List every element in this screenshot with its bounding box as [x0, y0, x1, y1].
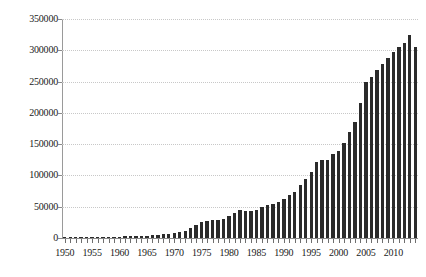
bar: [315, 162, 318, 238]
bar: [85, 237, 88, 238]
bar: [211, 220, 214, 238]
x-axis-tick: [81, 239, 82, 243]
x-axis-tick: [415, 239, 416, 243]
bar: [397, 47, 400, 238]
x-axis-tick: [251, 239, 252, 243]
x-axis-tick: [202, 239, 203, 243]
bar: [260, 207, 263, 238]
bar: [145, 236, 148, 239]
x-axis-tick: [229, 239, 230, 243]
bar: [375, 70, 378, 238]
x-axis-tick: [196, 239, 197, 243]
y-axis-tick-label: 300000: [2, 45, 58, 55]
x-axis-tick: [306, 239, 307, 243]
x-axis-tick: [350, 239, 351, 243]
x-axis-tick: [284, 239, 285, 243]
x-axis-tick: [125, 239, 126, 243]
x-axis-tick: [218, 239, 219, 243]
x-axis-tick: [120, 239, 121, 243]
bar: [189, 228, 192, 238]
bar: [342, 143, 345, 238]
x-axis-tick: [191, 239, 192, 243]
x-axis-tick: [65, 239, 66, 243]
x-axis-tick: [224, 239, 225, 243]
bar: [79, 237, 82, 238]
bar: [129, 236, 132, 238]
x-axis-tick: [289, 239, 290, 243]
bar: [151, 235, 154, 238]
bar: [249, 211, 252, 238]
x-axis-tick: [147, 239, 148, 243]
bar: [364, 82, 367, 238]
bar: [408, 35, 411, 238]
x-axis-tick: [393, 239, 394, 243]
x-axis-tick: [273, 239, 274, 243]
x-axis-tick: [339, 239, 340, 243]
bar: [227, 216, 230, 238]
bar: [156, 235, 159, 238]
x-axis-tick: [114, 239, 115, 243]
bar: [392, 52, 395, 238]
x-axis-tick: [92, 239, 93, 243]
x-axis-tick: [169, 239, 170, 243]
x-axis-tick: [410, 239, 411, 243]
x-axis-tick: [311, 239, 312, 243]
gridline: [62, 19, 418, 21]
x-axis-tick: [152, 239, 153, 243]
x-axis-tick: [377, 239, 378, 243]
x-axis-tick: [262, 239, 263, 243]
bar: [403, 43, 406, 238]
x-axis-labels: 1950195519601965197019751980198519901995…: [0, 247, 426, 263]
x-axis-tick-label: 2010: [373, 247, 413, 259]
x-axis-tick: [174, 239, 175, 243]
bar: [353, 122, 356, 238]
bar-chart: 0500001000001500002000002500003000003500…: [0, 0, 426, 277]
x-axis-tick: [278, 239, 279, 243]
bar: [266, 205, 269, 238]
x-axis-tick: [256, 239, 257, 243]
bar: [370, 77, 373, 238]
bar: [244, 211, 247, 238]
bar: [200, 222, 203, 238]
x-axis-ticks: [62, 239, 418, 244]
bar: [118, 237, 121, 238]
x-axis-tick: [180, 239, 181, 243]
bar: [140, 236, 143, 238]
x-axis-tick: [317, 239, 318, 243]
y-axis-tick-label: 100000: [2, 170, 58, 180]
bar: [167, 234, 170, 239]
bar: [386, 58, 389, 238]
x-axis-tick: [404, 239, 405, 243]
gridline: [62, 50, 418, 52]
bar: [205, 221, 208, 238]
x-axis-tick: [103, 239, 104, 243]
bar: [414, 47, 417, 238]
x-axis-tick: [388, 239, 389, 243]
bar: [178, 232, 181, 238]
x-axis-tick: [360, 239, 361, 243]
bar: [107, 237, 110, 238]
bar: [320, 160, 323, 238]
bar: [299, 185, 302, 238]
x-axis-tick: [245, 239, 246, 243]
bar: [194, 225, 197, 238]
y-axis-tick-label: 150000: [2, 139, 58, 149]
bar: [112, 237, 115, 238]
bar: [216, 220, 219, 238]
x-axis-tick: [300, 239, 301, 243]
bar: [101, 237, 104, 238]
bar: [337, 151, 340, 238]
y-axis-tick-label: 350000: [2, 14, 58, 24]
x-axis-tick: [235, 239, 236, 243]
x-axis-tick: [130, 239, 131, 243]
bar: [90, 237, 93, 238]
bar: [74, 237, 77, 238]
bar: [222, 219, 225, 238]
x-axis-tick: [70, 239, 71, 243]
y-axis-tick-label: 0: [2, 233, 58, 243]
bar: [288, 195, 291, 238]
x-axis-tick: [322, 239, 323, 243]
bar: [277, 202, 280, 238]
bar: [96, 237, 99, 238]
x-axis-tick: [382, 239, 383, 243]
